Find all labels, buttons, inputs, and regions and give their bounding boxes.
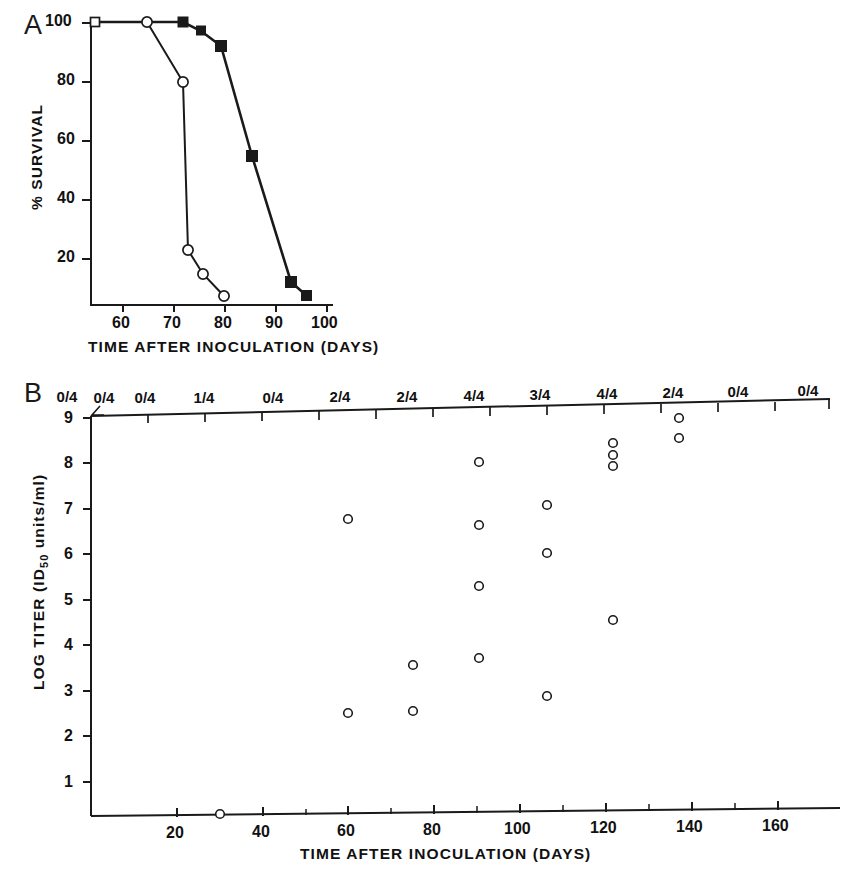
panel-b-data-point	[543, 501, 552, 510]
panel-b-top-label-6: 2/4	[387, 388, 427, 405]
panel-a-plot-area	[0, 0, 852, 360]
panel-a-marker-open-circle	[178, 77, 188, 87]
panel-a-series-filled-line	[95, 22, 307, 296]
panel-b-top-label-8: 3/4	[520, 386, 560, 403]
panel-b-data-point	[543, 549, 552, 558]
panel-b-data-point	[609, 616, 618, 625]
panel-b-data-point	[475, 654, 484, 663]
panel-a-ytick-mark-40	[82, 199, 90, 201]
panel-a-xtick-mark-60	[122, 304, 124, 312]
panel-a-xtick-mark-90	[275, 304, 277, 312]
panel-a-xtick-mark-100	[326, 304, 328, 312]
panel-a-ytick-20: 20	[57, 248, 75, 266]
panel-b-data-point	[475, 458, 484, 467]
panel-a-marker-filled-square	[215, 40, 227, 52]
panel-b-y-axis-title: LOG TITER (ID50 units/ml)	[30, 474, 50, 690]
panel-a-ytick-mark-80	[82, 81, 90, 83]
panel-a-marker-open-circle	[142, 17, 152, 27]
panel-b-data-point	[675, 414, 684, 423]
panel-b-top-label-11: 0/4	[718, 383, 758, 400]
panel-a-marker-filled-square	[178, 17, 189, 28]
panel-a-marker-open-circle	[219, 291, 229, 301]
panel-b-data-point	[409, 707, 418, 716]
panel-b-xtick-60: 60	[337, 822, 355, 840]
panel-b-top-label-2: 0/4	[125, 389, 165, 406]
panel-a-marker-open-circle	[183, 245, 193, 255]
panel-a-ytick-mark-100	[82, 22, 90, 24]
panel-b-xtick-40: 40	[252, 823, 270, 841]
panel-b-ytick-6: 6	[64, 545, 73, 563]
panel-b-xtick-100: 100	[504, 820, 531, 838]
panel-b-data-point	[216, 810, 225, 819]
panel-b-ytick-8: 8	[64, 454, 73, 472]
panel-b-ytick-4: 4	[64, 636, 73, 654]
panel-a-ytick-mark-60	[82, 140, 90, 142]
panel-b-ytick-9: 9	[64, 409, 73, 427]
panel-b-data-point	[543, 692, 552, 701]
panel-b-top-label-4: 0/4	[253, 389, 293, 406]
panel-a-marker-filled-square	[301, 290, 312, 301]
figure-root: A % SURVIVAL 100 80 60 40 20 60 70 80 90…	[0, 0, 852, 873]
panel-a-xtick-80: 80	[214, 314, 232, 332]
panel-b-data-point	[344, 515, 353, 524]
panel-b-data-point	[344, 709, 353, 718]
panel-a-letter: A	[24, 10, 43, 41]
panel-a-marker-open-circle	[198, 269, 208, 279]
panel-a-marker-filled-square	[246, 150, 258, 162]
panel-b-top-label-7: 4/4	[454, 387, 494, 404]
panel-a-xtick-70: 70	[163, 314, 181, 332]
panel-b-ytick-1: 1	[64, 773, 73, 791]
panel-a-ytick-100: 100	[45, 12, 72, 30]
panel-a-x-axis-title: TIME AFTER INOCULATION (DAYS)	[88, 338, 379, 356]
panel-b-top-label-12: 0/4	[788, 382, 828, 399]
panel-b-top-label-1: 0/4	[84, 389, 124, 406]
panel-a-x-axis-line	[90, 304, 333, 306]
panel-b-top-label-9: 4/4	[587, 385, 627, 402]
panel-b-ytick-5: 5	[64, 591, 73, 609]
panel-b-data-point	[675, 434, 684, 443]
panel-b-top-label-5: 2/4	[320, 388, 360, 405]
panel-a-ytick-60: 60	[57, 130, 75, 148]
panel-b-y-axis-title-tail: units/ml)	[30, 474, 47, 554]
panel-b-data-point	[609, 451, 618, 460]
panel-b-ytick-3: 3	[64, 682, 73, 700]
panel-a-ytick-mark-20	[82, 258, 90, 260]
panel-b-top-label-3: 1/4	[184, 389, 224, 406]
panel-b-data-point	[475, 521, 484, 530]
panel-b-xtick-80: 80	[423, 821, 441, 839]
panel-b-xtick-160: 160	[762, 817, 789, 835]
panel-b-y-axis-title-main: LOG TITER (ID	[30, 568, 47, 690]
panel-b-y-axis-title-subscript: 50	[38, 554, 50, 568]
panel-a-ytick-80: 80	[57, 71, 75, 89]
panel-a-xtick-100: 100	[311, 314, 338, 332]
panel-b-xtick-20: 20	[166, 824, 184, 842]
panel-b-data-point	[609, 439, 618, 448]
panel-b-x-axis-line	[91, 808, 840, 816]
panel-b-top-label-10: 2/4	[653, 384, 693, 401]
panel-b-ytick-2: 2	[64, 727, 73, 745]
panel-b-x-axis-title: TIME AFTER INOCULATION (DAYS)	[300, 845, 591, 863]
panel-a-marker-filled-square	[196, 26, 206, 36]
panel-a-xtick-60: 60	[112, 314, 130, 332]
panel-b-data-point	[475, 582, 484, 591]
panel-b-top-label-0: 0/4	[47, 388, 87, 405]
panel-a-y-axis-title: % SURVIVAL	[28, 104, 46, 210]
panel-b-data-point	[609, 462, 618, 471]
panel-a-xtick-mark-80	[224, 304, 226, 312]
panel-a-marker-filled-square	[285, 276, 297, 288]
panel-b-letter: B	[24, 378, 43, 409]
panel-b-plot-area	[0, 370, 852, 830]
panel-b-ytick-7: 7	[64, 500, 73, 518]
panel-b-axis-break-arrow-icon	[92, 406, 104, 415]
panel-b-xtick-140: 140	[676, 818, 703, 836]
panel-a-ytick-40: 40	[57, 189, 75, 207]
panel-a-xtick-mark-70	[173, 304, 175, 312]
panel-a-series-open-line	[95, 22, 224, 296]
panel-b-data-point	[409, 661, 418, 670]
panel-a-y-axis-line	[90, 22, 92, 306]
panel-b-xtick-120: 120	[590, 819, 617, 837]
panel-a-xtick-90: 90	[265, 314, 283, 332]
